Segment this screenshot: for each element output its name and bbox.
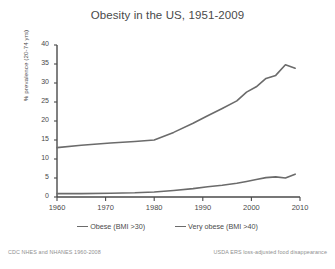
y-tick-label: 20 bbox=[33, 116, 49, 123]
x-tick-label: 2010 bbox=[280, 203, 320, 212]
legend-line-swatch-obese bbox=[77, 226, 88, 227]
x-tick-label: 1960 bbox=[37, 203, 77, 212]
x-tick-label: 1990 bbox=[183, 203, 223, 212]
series-line bbox=[57, 174, 295, 193]
y-tick-label: 35 bbox=[33, 59, 49, 66]
chart-figure: Obesity in the US, 1951-2009 % prevalenc… bbox=[0, 0, 335, 269]
y-tick-label: 0 bbox=[33, 192, 49, 199]
x-tick-label: 1980 bbox=[134, 203, 174, 212]
x-tick-label: 1970 bbox=[86, 203, 126, 212]
legend-line-swatch-very-obese bbox=[175, 226, 186, 227]
y-tick-label: 30 bbox=[33, 78, 49, 85]
data-series-lines bbox=[57, 65, 295, 194]
legend-label-obese: Obese (BMI >30) bbox=[90, 222, 145, 231]
y-tick-label: 5 bbox=[33, 173, 49, 180]
y-tick-label: 15 bbox=[33, 135, 49, 142]
series-line bbox=[57, 65, 295, 148]
y-tick-label: 25 bbox=[33, 97, 49, 104]
legend-item-obese: Obese (BMI >30) bbox=[77, 222, 145, 231]
legend-label-very-obese: Very obese (BMI >40) bbox=[188, 222, 258, 231]
chart-legend: Obese (BMI >30) Very obese (BMI >40) bbox=[0, 222, 335, 231]
footer-source-right: USDA ERS loss-adjusted food disappearanc… bbox=[214, 249, 327, 255]
axis-lines bbox=[57, 45, 300, 197]
legend-item-very-obese: Very obese (BMI >40) bbox=[175, 222, 258, 231]
x-tick-label: 2000 bbox=[231, 203, 271, 212]
y-tick-label: 10 bbox=[33, 154, 49, 161]
footer-source-left: CDC NHES and NHANES 1960-2008 bbox=[8, 249, 101, 255]
y-tick-label: 40 bbox=[33, 40, 49, 47]
chart-footer: CDC NHES and NHANES 1960-2008 USDA ERS l… bbox=[0, 249, 335, 255]
